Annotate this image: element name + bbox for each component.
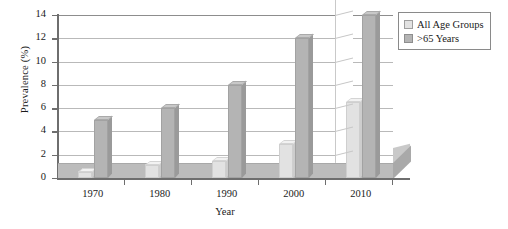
- bar-1990-series1: [228, 85, 242, 178]
- bar-face: [228, 85, 242, 178]
- bar-2010-series0: [346, 102, 360, 178]
- legend-item-0: All Age Groups: [404, 17, 484, 31]
- bar-1980-series1: [161, 108, 175, 178]
- y-axis-tick-label: 8: [6, 79, 46, 89]
- x-axis-tick-label: 1980: [130, 188, 190, 199]
- legend-swatch-icon: [404, 34, 413, 43]
- y-axis-tick-label: 14: [6, 9, 46, 19]
- x-axis-title: Year: [0, 206, 450, 217]
- bar-face: [145, 165, 159, 178]
- bar-2000-series1: [295, 38, 309, 178]
- x-axis-tick: [191, 179, 192, 185]
- bar-side: [309, 34, 313, 178]
- bar-face: [94, 120, 108, 178]
- bar-face: [78, 172, 92, 178]
- x-axis-tick-label: 2000: [264, 188, 324, 199]
- bar-face: [346, 102, 360, 178]
- y-axis-tick-label: 4: [6, 125, 46, 135]
- y-axis-tick: [52, 62, 58, 63]
- bar-chart-figure: Prevalence (%) Year 02468101214 19701980…: [0, 0, 508, 229]
- x-axis-tick: [258, 179, 259, 185]
- bar-face: [212, 161, 226, 178]
- x-axis-tick: [124, 179, 125, 185]
- bar-1970-series0: [78, 172, 92, 178]
- x-axis-tick: [392, 179, 393, 185]
- legend-item-label: All Age Groups: [417, 19, 484, 30]
- y-axis-tick-label: 0: [6, 172, 46, 182]
- bar-1970-series1: [94, 120, 108, 178]
- legend-item-label: >65 Years: [417, 33, 459, 44]
- y-axis-tick: [52, 178, 58, 179]
- bar-2010-series1: [362, 15, 376, 178]
- legend-swatch-icon: [404, 20, 413, 29]
- bar-face: [161, 108, 175, 178]
- y-axis-tick: [52, 108, 58, 109]
- y-axis-tick: [52, 85, 58, 86]
- legend-item-1: >65 Years: [404, 31, 484, 45]
- y-axis-tick-label: 2: [6, 149, 46, 159]
- x-axis-tick-label: 1990: [197, 188, 257, 199]
- x-axis-tick: [325, 179, 326, 185]
- bar-1990-series0: [212, 161, 226, 178]
- bar-side: [376, 11, 380, 178]
- x-axis-tick-label: 1970: [63, 188, 123, 199]
- y-axis-tick: [52, 131, 58, 132]
- y-axis-tick: [52, 38, 58, 39]
- bar-1980-series0: [145, 165, 159, 178]
- bar-side: [175, 104, 179, 178]
- bar-2000-series0: [279, 144, 293, 178]
- bar-side: [108, 115, 112, 178]
- chart-legend: All Age Groups>65 Years: [398, 12, 491, 50]
- x-axis-line: [57, 178, 410, 180]
- y-axis-tick-label: 6: [6, 102, 46, 112]
- x-axis-tick-label: 2010: [331, 188, 391, 199]
- y-axis-tick-label: 10: [6, 56, 46, 66]
- bar-face: [362, 15, 376, 178]
- bar-face: [279, 144, 293, 178]
- y-axis-tick-label: 12: [6, 32, 46, 42]
- bar-side: [242, 80, 246, 178]
- y-axis-tick: [52, 15, 58, 16]
- bar-face: [295, 38, 309, 178]
- y-axis-tick: [52, 155, 58, 156]
